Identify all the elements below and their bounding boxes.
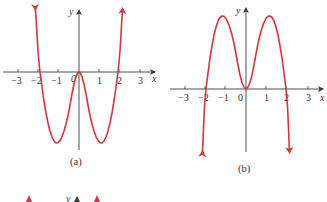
tick-label: −3	[178, 92, 189, 103]
figure: −3 −2 −1 0 1 2 3 x y (a) −3 −2 −1 0 1 2 …	[0, 0, 327, 202]
tick-label: −1	[218, 92, 229, 103]
y-axis-label: y	[68, 6, 74, 17]
tick-label: −1	[51, 75, 62, 86]
caption-a: (a)	[70, 156, 82, 168]
tick-label: 3	[138, 75, 143, 86]
x-axis-label: x	[151, 73, 157, 84]
graph-b: −3 −2 −1 0 1 2 3 x y (b)	[170, 5, 325, 175]
y-axis-label: y	[235, 5, 241, 16]
x-axis-label: x	[319, 92, 325, 103]
origin-label: 0	[238, 92, 243, 103]
caption-b: (b)	[238, 163, 251, 175]
graph-a: −3 −2 −1 0 1 2 3 x y (a)	[3, 6, 157, 168]
y-axis-label: y	[65, 193, 71, 202]
tick-label: −2	[198, 92, 209, 103]
tick-label: 1	[97, 75, 102, 86]
red-arrow-icon	[26, 195, 32, 202]
axis-arrow-icon	[74, 196, 80, 202]
partial-next-row: y	[26, 193, 100, 202]
red-arrow-icon	[94, 195, 100, 202]
tick-label: 3	[306, 92, 311, 103]
tick-label: −3	[11, 75, 22, 86]
tick-label: 1	[264, 92, 269, 103]
